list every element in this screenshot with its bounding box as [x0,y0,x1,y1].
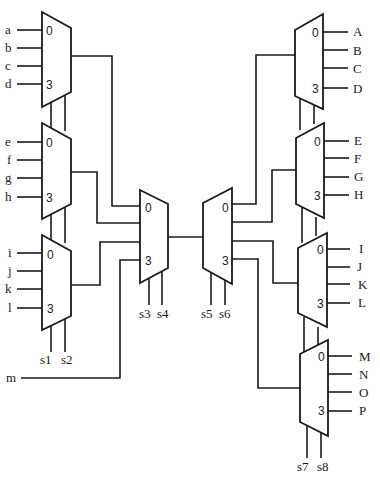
demux-IJKL: 0 3 I J K L [298,233,368,327]
select-label-s5: s5 [201,306,213,321]
mux-abcd: a b c d 0 3 [5,12,71,107]
input-label: g [5,170,12,185]
index-label: 3 [46,191,53,205]
wire-mux1-to-center [71,56,140,206]
select-label-s1: s1 [40,352,52,367]
output-label: F [354,151,361,166]
index-label: 0 [46,136,53,150]
index-label: 0 [47,248,54,262]
index-label: 3 [222,254,229,268]
output-label: M [359,349,371,364]
output-label: H [354,187,363,202]
wire-mux3-to-center [71,242,140,285]
mux-ijkl: i j k l 0 3 [5,235,71,330]
wire-center-to-demux3 [232,241,298,283]
output-label: G [354,169,363,184]
output-label: P [359,403,366,418]
output-label: B [353,43,362,58]
select-label-s2: s2 [61,352,73,367]
output-label: I [359,241,363,256]
input-label: k [5,281,12,296]
index-label: 0 [318,350,325,364]
input-label: l [8,300,12,315]
select-label-s8: s8 [317,459,329,474]
output-label: E [354,133,362,148]
input-label: a [5,22,11,37]
output-label: C [353,61,362,76]
center-demux: 0 3 s5 s6 [201,188,232,321]
output-label: J [357,259,362,274]
input-label: c [5,58,11,73]
output-label: O [359,385,368,400]
input-label: e [5,134,11,149]
wire-center-to-demux4 [232,259,300,388]
input-label: h [5,189,12,204]
wire-mux2-to-center [71,172,140,223]
demux-MNOP: 0 3 M N O P [300,340,371,436]
mux-efgh: e f g h 0 3 [5,123,71,219]
input-label: d [5,76,12,91]
index-label: 0 [314,135,321,149]
index-label: 3 [318,404,325,418]
select-label-s3: s3 [139,306,151,321]
index-label: 0 [145,201,152,215]
output-label: L [358,295,366,310]
index-label: 3 [317,297,324,311]
output-label: N [359,367,369,382]
output-label: K [358,277,368,292]
wire-center-to-demux1 [232,55,295,204]
demux-ABCD: 0 3 A B C D [295,14,363,109]
input-label: i [8,245,12,260]
output-label: A [353,24,363,39]
input-label: b [5,40,12,55]
center-mux: 0 3 s3 s4 [139,190,169,321]
wire-center-to-demux2 [232,170,296,222]
input-label: f [7,152,12,167]
input-label: j [7,263,12,278]
select-label-s7: s7 [297,459,309,474]
index-label: 3 [314,189,321,203]
index-label: 3 [46,78,53,92]
input-label-m: m [6,370,16,385]
mux-network-diagram: a b c d 0 3 e f g h 0 3 i j k l 0 3 s1 s… [0,0,380,479]
index-label: 3 [47,302,54,316]
index-label: 0 [222,201,229,215]
wire-m [21,260,140,378]
select-label-s6: s6 [219,306,231,321]
index-label: 3 [312,82,319,96]
output-label: D [353,81,362,96]
index-label: 3 [145,254,152,268]
demux-EFGH: 0 3 E F G H [296,123,363,218]
index-label: 0 [46,24,53,38]
select-label-s4: s4 [157,306,169,321]
index-label: 0 [317,243,324,257]
index-label: 0 [312,26,319,40]
